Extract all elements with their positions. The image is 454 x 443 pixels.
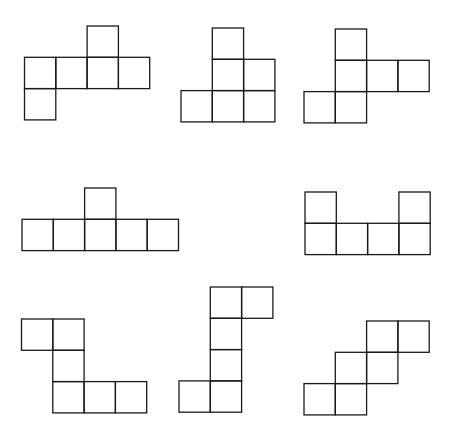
square-cell	[304, 92, 335, 123]
square-cell	[212, 28, 243, 59]
square-cell	[56, 57, 87, 88]
square-cell	[335, 352, 366, 383]
square-cell	[367, 321, 398, 352]
square-cell	[115, 382, 146, 413]
square-cell	[179, 381, 210, 412]
net-1	[25, 26, 150, 120]
square-cell	[84, 382, 115, 413]
square-cell	[22, 319, 53, 350]
square-cell	[305, 223, 336, 254]
net-8	[304, 321, 429, 415]
square-cell	[210, 318, 241, 349]
square-cell	[335, 29, 366, 60]
square-cell	[25, 89, 56, 120]
square-cell	[335, 384, 366, 415]
square-cell	[87, 26, 118, 57]
square-cell	[53, 319, 84, 350]
square-cell	[181, 91, 212, 122]
net-5	[305, 192, 430, 255]
square-cell	[212, 91, 243, 122]
hexomino-nets-diagram	[0, 0, 454, 443]
square-cell	[398, 60, 429, 91]
square-cell	[336, 223, 367, 254]
net-2	[181, 28, 275, 122]
square-cell	[305, 192, 336, 223]
square-cell	[367, 60, 398, 91]
square-cell	[147, 219, 178, 250]
square-cell	[210, 381, 241, 412]
square-cell	[399, 192, 430, 223]
square-cell	[244, 59, 275, 90]
square-cell	[242, 287, 273, 318]
square-cell	[244, 91, 275, 122]
square-cell	[335, 60, 366, 91]
square-cell	[399, 223, 430, 254]
square-cell	[85, 188, 116, 219]
square-cell	[118, 57, 149, 88]
square-cell	[53, 219, 84, 250]
square-cell	[210, 287, 241, 318]
net-4	[22, 188, 179, 251]
square-cell	[22, 219, 53, 250]
square-cell	[25, 57, 56, 88]
square-cell	[398, 321, 429, 352]
net-7	[179, 287, 273, 412]
square-cell	[210, 350, 241, 381]
square-cell	[53, 382, 84, 413]
square-cell	[87, 57, 118, 88]
square-cell	[212, 59, 243, 90]
square-cell	[304, 384, 335, 415]
square-cell	[368, 223, 399, 254]
square-cell	[53, 350, 84, 381]
square-cell	[116, 219, 147, 250]
square-cell	[367, 352, 398, 383]
net-6	[22, 319, 147, 413]
net-3	[304, 29, 429, 123]
square-cell	[335, 92, 366, 123]
square-cell	[85, 219, 116, 250]
